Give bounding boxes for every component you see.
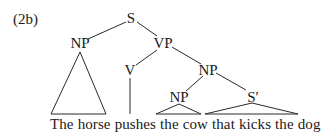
node-np-inner: NP [169,90,188,105]
edge-s-np [88,22,126,39]
word: horse [78,116,111,132]
node-np-subject: NP [70,36,89,51]
edge-np-np [186,76,203,91]
edge-s-vp [137,22,157,36]
node-s: S [127,11,135,26]
word: pushes [115,116,156,132]
triangle-np-the-horse [51,52,106,114]
node-sbar: S′ [247,90,259,105]
word: that [212,116,235,132]
example-number: (2b) [13,12,38,27]
triangle-np-the-cow [156,104,201,114]
node-vp: VP [153,36,172,51]
sentence: Thehorsepushesthecowthatkicksthedog [50,117,324,132]
word: the [160,116,179,132]
word: dog [298,116,321,132]
syntax-tree-diagram: (2b) S NP VP V NP NP S′ Thehorsepushesth… [0,0,324,137]
edge-vp-v [136,50,157,65]
word: kicks [239,116,271,132]
edge-np-sbar [216,73,246,90]
edge-vp-np [172,47,201,64]
word: The [50,116,74,132]
node-np-object: NP [198,63,217,78]
word: the [275,116,294,132]
node-v: V [125,63,136,78]
word: cow [183,116,208,132]
